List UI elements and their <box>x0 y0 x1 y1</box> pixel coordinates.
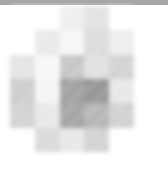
mosaic-cell-r5-c3 <box>84 128 109 152</box>
mosaic-cell-hatch <box>60 79 85 103</box>
mosaic-cell-r2-c2 <box>60 55 85 79</box>
pixelated-heatmap-mosaic <box>10 6 134 152</box>
mosaic-cell-r4-c2 <box>60 103 85 127</box>
mosaic-cell-r4-c4 <box>109 103 134 127</box>
mosaic-cell-hatch <box>60 6 85 30</box>
mosaic-cell-r0-c0 <box>10 6 35 30</box>
mosaic-cell-hatch <box>60 30 85 54</box>
mosaic-cell-hatch <box>109 103 134 127</box>
mosaic-cell-r1-c3 <box>84 30 109 54</box>
mosaic-cell-hatch <box>84 128 109 152</box>
mosaic-cell-r5-c0 <box>10 128 35 152</box>
mosaic-cell-r3-c3 <box>84 79 109 103</box>
mosaic-cell-r0-c4 <box>109 6 134 30</box>
mosaic-cell-hatch <box>84 6 109 30</box>
mosaic-cell-r2-c3 <box>84 55 109 79</box>
mosaic-cell-r2-c0 <box>10 55 35 79</box>
mosaic-cell-hatch <box>60 55 85 79</box>
mosaic-cell-r5-c1 <box>35 128 60 152</box>
mosaic-cell-r4-c3 <box>84 103 109 127</box>
mosaic-cell-hatch <box>60 103 85 127</box>
mosaic-cell-r3-c4 <box>109 79 134 103</box>
mosaic-cell-hatch <box>84 103 109 127</box>
mosaic-cell-r5-c4 <box>109 128 134 152</box>
mosaic-cell-hatch <box>84 30 109 54</box>
mosaic-cell-hatch <box>84 55 109 79</box>
mosaic-cell-r4-c0 <box>10 103 35 127</box>
thumbnail-canvas <box>0 0 168 169</box>
mosaic-cell-hatch <box>109 79 134 103</box>
top-gray-bar <box>0 0 168 5</box>
mosaic-cell-hatch <box>10 103 35 127</box>
mosaic-cell-r1-c4 <box>109 30 134 54</box>
mosaic-cell-hatch <box>35 30 60 54</box>
mosaic-cell-hatch <box>35 79 60 103</box>
mosaic-cell-r0-c3 <box>84 6 109 30</box>
mosaic-cell-hatch <box>109 30 134 54</box>
mosaic-cell-hatch <box>35 103 60 127</box>
mosaic-cell-hatch <box>35 128 60 152</box>
mosaic-cell-r2-c1 <box>35 55 60 79</box>
mosaic-cell-r3-c1 <box>35 79 60 103</box>
mosaic-cell-hatch <box>10 79 35 103</box>
mosaic-cell-hatch <box>84 79 109 103</box>
mosaic-cell-r3-c2 <box>60 79 85 103</box>
mosaic-cell-r1-c2 <box>60 30 85 54</box>
mosaic-cell-r1-c0 <box>10 30 35 54</box>
mosaic-cell-r0-c2 <box>60 6 85 30</box>
mosaic-cell-r5-c2 <box>60 128 85 152</box>
mosaic-cell-hatch <box>10 55 35 79</box>
mosaic-cell-r0-c1 <box>35 6 60 30</box>
mosaic-cell-r4-c1 <box>35 103 60 127</box>
mosaic-cell-hatch <box>109 55 134 79</box>
mosaic-cell-hatch <box>35 55 60 79</box>
mosaic-cell-r2-c4 <box>109 55 134 79</box>
mosaic-cell-hatch <box>60 128 85 152</box>
mosaic-cell-r1-c1 <box>35 30 60 54</box>
mosaic-cell-r3-c0 <box>10 79 35 103</box>
